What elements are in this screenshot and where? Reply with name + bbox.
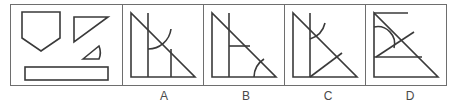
option-c[interactable] [284, 4, 366, 86]
option-a-figure [131, 13, 195, 77]
option-b-label: B [205, 86, 287, 108]
puzzle-root: A B C D [0, 0, 456, 110]
piece-arc-sector-shape [83, 46, 100, 59]
option-d-figure [374, 13, 438, 77]
option-d-label: D [369, 86, 451, 108]
panel-strip [10, 4, 450, 86]
option-a[interactable] [122, 4, 204, 86]
option-b[interactable] [203, 4, 285, 86]
option-d[interactable] [365, 4, 447, 86]
option-a-label: A [123, 86, 205, 108]
piece-rectangle-shape [25, 67, 108, 80]
option-b-figure [212, 13, 276, 77]
piece-right-triangle-shape [74, 17, 108, 42]
label-spacer [10, 86, 123, 108]
option-c-label: C [287, 86, 369, 108]
pieces-panel [10, 4, 123, 86]
option-label-strip: A B C D [10, 86, 450, 108]
option-c-figure [293, 13, 357, 77]
piece-pentagon-shape [22, 12, 60, 51]
